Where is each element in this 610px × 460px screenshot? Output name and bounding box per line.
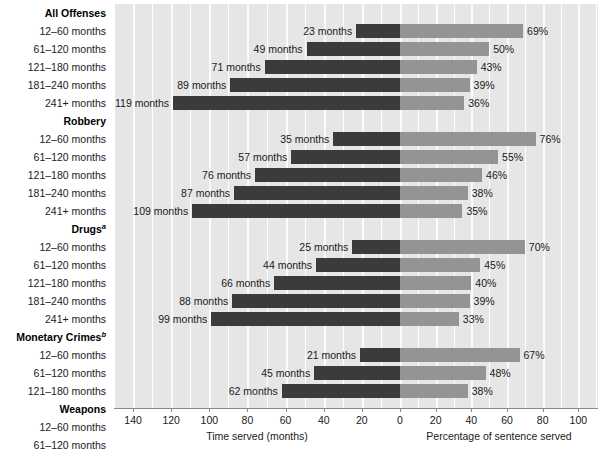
months-100-tick: [209, 408, 210, 412]
months-40-tick: [324, 408, 325, 412]
bar-value-months: 25 months: [299, 240, 352, 254]
table-row: 23 months69%: [114, 22, 598, 40]
bar-months: [291, 150, 400, 164]
group-label-monetary-crimes: Monetary Crimesb: [16, 328, 106, 346]
months-100-tick-label: 100: [189, 414, 229, 426]
bar-value-months: 89 months: [177, 78, 230, 92]
x-axis-title-right: Percentage of sentence served: [400, 430, 598, 442]
chart-container: 23 months69%49 months50%71 months43%89 m…: [0, 0, 610, 460]
bar-months: [307, 42, 400, 56]
bar-value-months: 23 months: [303, 24, 356, 38]
months-80-tick: [247, 408, 248, 412]
category-label: 121–180 months: [28, 58, 106, 76]
table-row: 45 months48%: [114, 364, 598, 382]
bar-value-months: 35 months: [280, 132, 333, 146]
percent-20-tick: [436, 408, 437, 412]
bar-months: [173, 96, 400, 110]
footnote-marker: a: [102, 222, 106, 231]
category-label: 12–60 months: [39, 22, 106, 40]
bar-months: [234, 186, 400, 200]
table-row: 89 months39%: [114, 76, 598, 94]
months-20-tick: [362, 408, 363, 412]
group-label-drugs: Drugsa: [71, 220, 106, 238]
category-label: 12–60 months: [39, 238, 106, 256]
category-label: 61–120 months: [34, 436, 106, 454]
x-axis-title-left: Time served (months): [114, 430, 400, 442]
bar-percent: [400, 204, 462, 218]
bar-value-months: 99 months: [158, 312, 211, 326]
table-row: 21 months67%: [114, 346, 598, 364]
bar-value-percent: 36%: [464, 96, 489, 110]
bar-value-percent: 67%: [520, 348, 545, 362]
bar-percent: [400, 168, 482, 182]
category-label: 121–180 months: [28, 274, 106, 292]
months-80-tick-label: 80: [227, 414, 267, 426]
percent-20-tick-label: 20: [416, 414, 456, 426]
percent-40-tick: [471, 408, 472, 412]
bar-months: [352, 240, 400, 254]
bar-percent: [400, 348, 520, 362]
category-label: 61–120 months: [34, 256, 106, 274]
category-label: 12–60 months: [39, 346, 106, 364]
category-label: 181–240 months: [28, 292, 106, 310]
table-row: 109 months35%: [114, 202, 598, 220]
bar-months: [255, 168, 400, 182]
bar-value-percent: 39%: [470, 78, 495, 92]
months-140-tick-label: 140: [113, 414, 153, 426]
table-row: 87 months38%: [114, 184, 598, 202]
category-label: 181–240 months: [28, 76, 106, 94]
bar-percent: [400, 294, 470, 308]
category-label: 241+ months: [45, 310, 106, 328]
bar-value-percent: 76%: [536, 132, 561, 146]
table-row: 44 months45%: [114, 256, 598, 274]
percent-60-tick-label: 60: [487, 414, 527, 426]
category-label: 241+ months: [45, 202, 106, 220]
category-label: 181–240 months: [28, 184, 106, 202]
months-40-tick-label: 40: [304, 414, 344, 426]
group-label-weapons: Weapons: [60, 400, 106, 418]
bar-value-percent: 55%: [498, 150, 523, 164]
months-20-tick-label: 20: [342, 414, 382, 426]
percent-80-tick-label: 80: [523, 414, 563, 426]
group-label-all-offenses: All Offenses: [45, 4, 106, 22]
bar-percent: [400, 150, 498, 164]
months-0-tick-label: 0: [380, 414, 420, 426]
bar-percent: [400, 78, 470, 92]
percent-100-tick: [578, 408, 579, 412]
bar-value-months: 44 months: [263, 258, 316, 272]
category-label: 12–60 months: [39, 418, 106, 436]
bar-months: [274, 276, 400, 290]
bar-value-percent: 35%: [462, 204, 487, 218]
bar-value-percent: 48%: [486, 366, 511, 380]
bar-months: [265, 60, 400, 74]
bar-value-months: 45 months: [261, 366, 314, 380]
percent-80-tick: [543, 408, 544, 412]
bar-percent: [400, 42, 489, 56]
bar-value-months: 62 months: [229, 384, 282, 398]
bar-value-months: 88 months: [179, 294, 232, 308]
bar-value-percent: 43%: [477, 60, 502, 74]
bar-months: [316, 258, 400, 272]
table-row: 99 months33%: [114, 310, 598, 328]
bar-value-months: 109 months: [133, 204, 192, 218]
category-label: 61–120 months: [34, 40, 106, 58]
x-axis-line: [114, 408, 598, 409]
bar-percent: [400, 258, 480, 272]
table-row: 25 months70%: [114, 238, 598, 256]
category-label: 61–120 months: [34, 364, 106, 382]
bar-value-percent: 33%: [459, 312, 484, 326]
table-row: 76 months46%: [114, 166, 598, 184]
bar-months: [333, 132, 400, 146]
bar-value-months: 71 months: [212, 60, 265, 74]
bar-months: [211, 312, 400, 326]
table-row: 88 months39%: [114, 292, 598, 310]
footnote-marker: b: [101, 330, 106, 339]
bar-months: [356, 24, 400, 38]
percent-60-tick: [507, 408, 508, 412]
bar-percent: [400, 240, 525, 254]
bar-percent: [400, 312, 459, 326]
bar-value-percent: 69%: [523, 24, 548, 38]
bar-value-percent: 39%: [470, 294, 495, 308]
table-row: 66 months40%: [114, 274, 598, 292]
bar-value-percent: 40%: [471, 276, 496, 290]
